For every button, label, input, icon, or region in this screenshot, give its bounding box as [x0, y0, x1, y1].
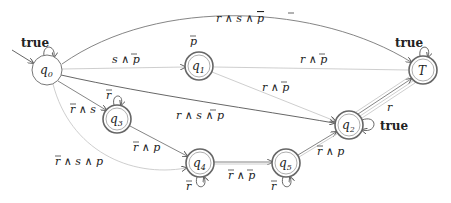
label-q1-loop: p — [190, 35, 197, 48]
edge-labels: true r ∧ s ∧ p s ∧ p r ∧ p p r ∧ p r ∧ s… — [21, 12, 424, 193]
label-q1-q2: r ∧ p — [262, 81, 289, 94]
label-q0-T-mid: r ∧ p — [300, 53, 327, 66]
label-q3-loop: r — [106, 89, 112, 102]
label-q4-loop: r — [186, 180, 192, 193]
label-q0-loop: true — [21, 36, 50, 50]
label-q0-T-top: r ∧ s ∧ p — [216, 12, 264, 25]
label-q3-q4: r ∧ p — [133, 141, 160, 154]
edge-q5-loop — [282, 177, 291, 187]
label-q0-q4: r ∧ s ∧ p — [55, 155, 103, 168]
state-q4[interactable]: q4 — [186, 149, 214, 177]
edge-q4-loop — [196, 177, 205, 187]
initial-arrow — [12, 50, 33, 63]
label-q0-q3: r ∧ s — [70, 103, 96, 116]
edge-q2-loop — [362, 119, 374, 131]
edge-q0-q1 — [62, 67, 185, 69]
state-q2[interactable]: q2 — [335, 111, 363, 139]
edge-q2-T-4 — [356, 77, 409, 112]
label-q5-loop: r — [271, 180, 277, 193]
automaton-diagram: q0 q1 T q2 q3 q4 q5 true r ∧ s ∧ p s ∧ p — [0, 0, 451, 203]
label-T-loop: true — [395, 36, 424, 50]
state-T[interactable]: T — [409, 56, 437, 84]
state-q3[interactable]: q3 — [103, 105, 131, 133]
state-q5[interactable]: q5 — [272, 149, 300, 177]
label-q2-T: r — [387, 101, 393, 114]
label-q0-q1: s ∧ p — [112, 53, 140, 66]
label-q2-loop: true — [380, 119, 409, 133]
edge-q0-T-mid — [214, 67, 408, 70]
edge-q1-q2 — [212, 72, 335, 121]
state-q1[interactable]: q1 — [185, 52, 213, 80]
label-q5-q2: r ∧ p — [317, 145, 344, 158]
state-q0[interactable]: q0 — [32, 55, 62, 85]
label-q0-q2: r ∧ s ∧ p — [176, 109, 224, 122]
edge-q2-T — [358, 79, 411, 114]
label-q4-q5: r ∧ p — [228, 169, 255, 182]
edge-q3-loop — [114, 96, 122, 105]
state-T-label: T — [418, 64, 427, 78]
